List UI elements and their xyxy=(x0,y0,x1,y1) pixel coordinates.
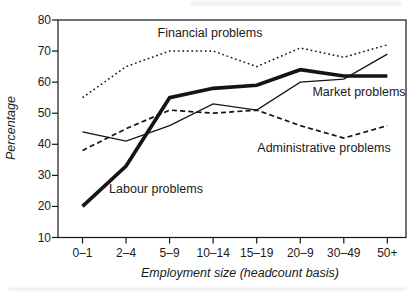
x-tick-label: 10–14 xyxy=(196,246,229,260)
y-tick-label: 40 xyxy=(26,137,51,151)
x-tick-label: 5–9 xyxy=(160,246,180,260)
y-tick-label: 60 xyxy=(26,75,51,89)
x-tick-label: 30–49 xyxy=(327,246,360,260)
x-tick-label: 15–19 xyxy=(240,246,273,260)
x-tick-label: 0–1 xyxy=(72,246,92,260)
y-tick-label: 70 xyxy=(26,44,51,58)
scan-artifact-bottom xyxy=(8,287,406,291)
y-tick-label: 80 xyxy=(26,13,51,27)
y-tick-label: 20 xyxy=(26,199,51,213)
x-axis-title: Employment size (headcount basis) xyxy=(141,266,339,280)
x-tick-label: 20–9 xyxy=(287,246,314,260)
line-chart-figure: Percentage Employment size (headcount ba… xyxy=(0,0,413,292)
plot-frame xyxy=(58,20,406,238)
scan-artifact-top xyxy=(190,1,402,6)
y-tick-label: 10 xyxy=(26,231,51,245)
series-label-financial-problems: Financial problems xyxy=(158,26,263,40)
series-label-administrative-problems: Administrative problems xyxy=(257,141,390,155)
x-tick-label: 2–4 xyxy=(116,246,136,260)
y-tick-label: 30 xyxy=(26,168,51,182)
series-label-market-problems: Market problems xyxy=(312,85,405,99)
y-axis-title: Percentage xyxy=(4,96,18,160)
y-tick-label: 50 xyxy=(26,106,51,120)
series-label-labour-problems: Labour problems xyxy=(109,182,203,196)
x-tick-label: 50+ xyxy=(377,246,397,260)
